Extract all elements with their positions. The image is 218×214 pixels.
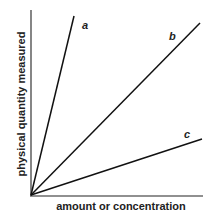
label-a: a xyxy=(82,19,88,31)
line-c xyxy=(31,139,202,195)
line-a xyxy=(31,16,74,195)
line-b xyxy=(31,23,200,195)
x-axis-label: amount or concentration xyxy=(56,200,186,212)
label-b: b xyxy=(169,30,176,42)
label-c: c xyxy=(184,128,190,140)
y-axis-label: physical quantity measured xyxy=(15,32,27,177)
chart: a b c physical quantity measured amount … xyxy=(0,0,218,214)
